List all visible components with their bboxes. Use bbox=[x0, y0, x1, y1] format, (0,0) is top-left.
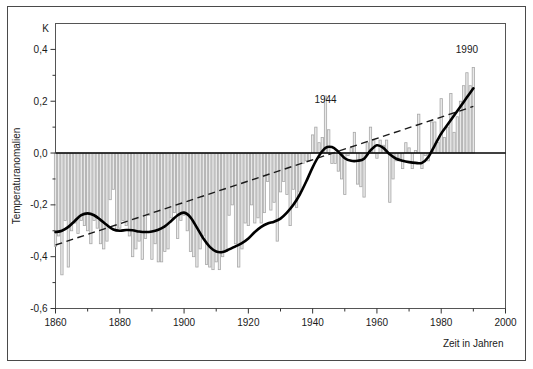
annotation-1990: 1990 bbox=[456, 44, 479, 55]
bar-1918 bbox=[241, 153, 243, 249]
bar-1890 bbox=[151, 153, 153, 259]
y-axis-unit-label: K bbox=[42, 23, 49, 34]
bar-1926 bbox=[266, 153, 268, 182]
bar-1876 bbox=[106, 153, 108, 241]
bar-1888 bbox=[144, 153, 146, 239]
y-tick-label-1: -0,4 bbox=[30, 251, 48, 262]
bar-1882 bbox=[125, 153, 127, 226]
bar-1971 bbox=[411, 153, 413, 169]
bar-1872 bbox=[93, 153, 95, 220]
bar-1862 bbox=[61, 153, 63, 275]
bar-1875 bbox=[103, 153, 105, 249]
temperature-anomaly-chart: 18601880190019201940196019802000-0,6-0,4… bbox=[0, 0, 533, 369]
bar-1865 bbox=[70, 153, 72, 231]
bar-1912 bbox=[221, 153, 223, 257]
bar-1914 bbox=[228, 153, 230, 215]
bar-1939 bbox=[308, 153, 310, 161]
bar-1883 bbox=[128, 153, 130, 236]
bar-1889 bbox=[148, 153, 150, 215]
bar-1903 bbox=[193, 153, 195, 257]
bar-1900 bbox=[183, 153, 185, 215]
bar-1887 bbox=[141, 153, 143, 259]
bar-1870 bbox=[86, 153, 88, 231]
bar-1924 bbox=[260, 153, 262, 223]
y-tick-label-5: 0,4 bbox=[34, 44, 48, 55]
x-tick-label-1880: 1880 bbox=[109, 317, 132, 328]
bar-1946 bbox=[331, 153, 333, 163]
x-tick-label-2000: 2000 bbox=[494, 317, 517, 328]
bar-1910 bbox=[215, 153, 217, 262]
bar-1871 bbox=[90, 153, 92, 244]
bar-1886 bbox=[138, 153, 140, 241]
x-tick-label-1980: 1980 bbox=[430, 317, 453, 328]
y-axis-title: Temperaturanomalien bbox=[11, 128, 22, 225]
bar-1908 bbox=[209, 153, 211, 267]
bar-1934 bbox=[292, 153, 294, 189]
bar-1970 bbox=[408, 148, 410, 153]
bar-1925 bbox=[263, 153, 265, 213]
x-tick-label-1900: 1900 bbox=[173, 317, 196, 328]
bar-1868 bbox=[80, 153, 82, 220]
bar-1948 bbox=[337, 153, 339, 171]
bar-1904 bbox=[196, 153, 198, 267]
bar-1885 bbox=[135, 153, 137, 249]
bar-1929 bbox=[276, 153, 278, 241]
bar-1931 bbox=[283, 153, 285, 182]
bar-1881 bbox=[122, 153, 124, 220]
bar-1866 bbox=[74, 153, 76, 223]
bar-1928 bbox=[273, 153, 275, 202]
bar-1867 bbox=[77, 153, 79, 233]
bar-1937 bbox=[302, 153, 304, 163]
y-tick-label-0: -0,6 bbox=[30, 303, 48, 314]
bar-1938 bbox=[305, 153, 307, 161]
bar-1987 bbox=[463, 86, 465, 153]
bar-1967 bbox=[398, 153, 400, 158]
bar-1909 bbox=[212, 153, 214, 270]
bar-1964 bbox=[389, 153, 391, 202]
bar-1942 bbox=[318, 143, 320, 153]
bar-1921 bbox=[250, 153, 252, 205]
x-axis-title: Zeit in Jahren bbox=[443, 338, 504, 349]
y-tick-label-3: 0,0 bbox=[34, 148, 48, 159]
bar-1897 bbox=[173, 153, 175, 213]
bar-1879 bbox=[115, 153, 117, 231]
bar-1878 bbox=[112, 153, 114, 189]
bar-1877 bbox=[109, 153, 111, 200]
bar-1894 bbox=[164, 153, 166, 251]
x-tick-label-1960: 1960 bbox=[366, 317, 389, 328]
bar-1953 bbox=[353, 132, 355, 153]
bar-1930 bbox=[279, 153, 281, 192]
bar-1899 bbox=[180, 153, 182, 220]
bar-1861 bbox=[58, 153, 60, 236]
annotation-1944: 1944 bbox=[314, 94, 337, 105]
bar-1985 bbox=[456, 117, 458, 153]
y-tick-label-2: -0,2 bbox=[30, 199, 48, 210]
bar-1947 bbox=[334, 153, 336, 163]
bar-1960 bbox=[376, 153, 378, 158]
figure-container: 18601880190019201940196019802000-0,6-0,4… bbox=[0, 0, 533, 369]
bar-1906 bbox=[202, 153, 204, 236]
bar-1893 bbox=[160, 153, 162, 262]
bar-1944 bbox=[324, 96, 326, 153]
bar-1927 bbox=[270, 153, 272, 210]
bar-1945 bbox=[328, 130, 330, 153]
bar-1895 bbox=[167, 153, 169, 249]
bar-1980 bbox=[440, 99, 442, 153]
bar-1982 bbox=[446, 127, 448, 153]
bar-1901 bbox=[186, 153, 188, 231]
bar-1955 bbox=[360, 153, 362, 187]
bar-1919 bbox=[244, 153, 246, 223]
x-tick-label-1920: 1920 bbox=[237, 317, 260, 328]
bar-1973 bbox=[418, 114, 420, 153]
bar-1933 bbox=[289, 153, 291, 226]
bar-1880 bbox=[119, 153, 121, 228]
bar-1907 bbox=[205, 153, 207, 264]
x-tick-label-1940: 1940 bbox=[302, 317, 325, 328]
bar-1915 bbox=[231, 153, 233, 205]
bar-1981 bbox=[443, 138, 445, 154]
bar-1884 bbox=[131, 153, 133, 257]
bar-1984 bbox=[453, 132, 455, 153]
bar-1917 bbox=[238, 153, 240, 267]
x-tick-label-1860: 1860 bbox=[44, 317, 67, 328]
bar-1898 bbox=[176, 153, 178, 239]
